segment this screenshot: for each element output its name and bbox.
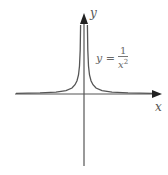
function-annotation: y = 1 x2 <box>96 46 128 70</box>
y-axis-arrow-icon <box>80 13 88 24</box>
equation-denominator: x2 <box>118 57 128 70</box>
chart-canvas <box>0 0 168 175</box>
x-axis-arrow-icon <box>152 90 162 98</box>
x-axis-label: x <box>155 100 162 114</box>
curve-left-branch <box>16 25 81 93</box>
equation-numerator: 1 <box>118 46 128 57</box>
y-axis-label: y <box>90 6 97 20</box>
equation-lhs: y = <box>96 52 115 65</box>
equation-fraction: 1 x2 <box>118 46 128 70</box>
equation-exponent: 2 <box>124 58 128 66</box>
